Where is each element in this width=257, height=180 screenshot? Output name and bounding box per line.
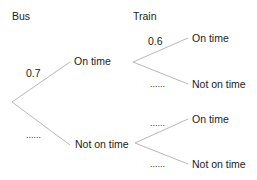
prob-bus-on-time: 0.7 xyxy=(26,68,41,79)
outcome-train-on-time-2: On time xyxy=(192,114,229,125)
tree-lines xyxy=(0,0,257,180)
prob-bus-not-on-time: ...... xyxy=(26,131,41,140)
prob-train-not-on-time-1: ...... xyxy=(150,80,165,89)
prob-train-not-on-time-2: ...... xyxy=(150,160,165,169)
outcome-train-not-on-time-1: Not on time xyxy=(192,79,246,90)
outcome-bus-not-on-time: Not on time xyxy=(75,139,129,150)
outcome-bus-on-time: On time xyxy=(74,56,111,67)
outcome-train-on-time-1: On time xyxy=(192,33,229,44)
outcome-train-not-on-time-2: Not on time xyxy=(192,159,246,170)
header-bus: Bus xyxy=(12,11,30,22)
prob-train-on-time-1: 0.6 xyxy=(148,36,163,47)
prob-train-on-time-2: ...... xyxy=(150,119,165,128)
header-train: Train xyxy=(133,11,157,22)
branch-bus-on-time xyxy=(12,62,70,102)
